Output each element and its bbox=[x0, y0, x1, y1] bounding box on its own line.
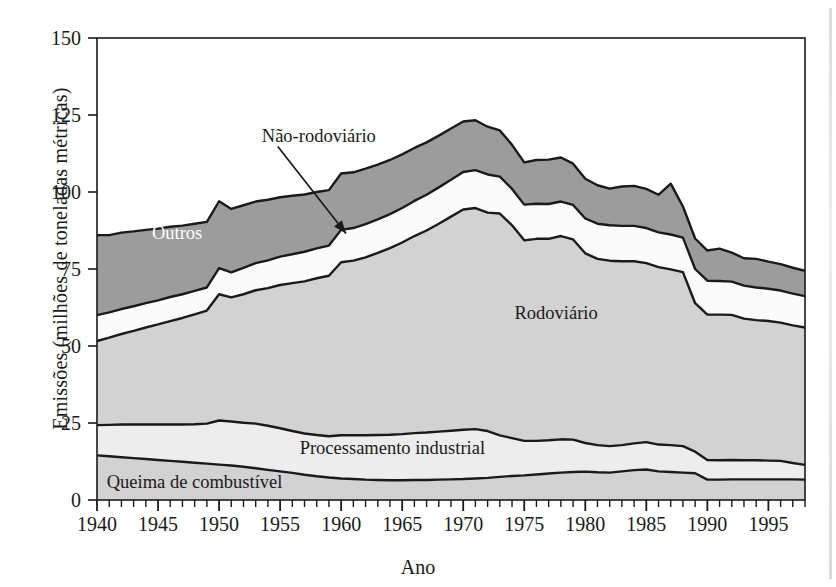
x-tick-label: 1990 bbox=[672, 514, 742, 534]
page-edge-artifact bbox=[829, 8, 832, 579]
x-tick-label: 1965 bbox=[367, 514, 437, 534]
x-tick-label: 1955 bbox=[245, 514, 315, 534]
x-tick-label: 1970 bbox=[428, 514, 498, 534]
x-tick-label: 1995 bbox=[733, 514, 803, 534]
series-label-processamento-industrial: Processamento industrial bbox=[300, 439, 485, 458]
y-axis-ticks bbox=[88, 38, 97, 500]
x-axis-minor-ticks bbox=[109, 500, 805, 507]
y-tick-label: 0 bbox=[29, 490, 81, 510]
y-tick-label: 75 bbox=[29, 259, 81, 279]
x-tick-label: 1940 bbox=[62, 514, 132, 534]
x-tick-label: 1975 bbox=[489, 514, 559, 534]
x-axis-ticks bbox=[97, 500, 768, 511]
series-label-rodoviario: Rodoviário bbox=[514, 304, 597, 323]
x-axis-title: Ano bbox=[0, 556, 836, 579]
stacked-area-chart bbox=[0, 0, 836, 587]
x-tick-label: 1945 bbox=[123, 514, 193, 534]
y-tick-label: 150 bbox=[29, 28, 81, 48]
x-tick-label: 1985 bbox=[611, 514, 681, 534]
y-tick-label: 25 bbox=[29, 413, 81, 433]
y-tick-label: 50 bbox=[29, 336, 81, 356]
x-tick-label: 1980 bbox=[550, 514, 620, 534]
series-label-queima-de-combustivel: Queima de combustível bbox=[107, 473, 283, 492]
chart-figure: Emissões (milhões de toneladas métricas)… bbox=[0, 0, 836, 587]
series-label-nao-rodoviario: Não-rodoviário bbox=[262, 127, 376, 146]
x-tick-label: 1960 bbox=[306, 514, 376, 534]
x-tick-label: 1950 bbox=[184, 514, 254, 534]
y-tick-label: 100 bbox=[29, 182, 81, 202]
y-tick-label: 125 bbox=[29, 105, 81, 125]
series-label-outros: Outros bbox=[152, 224, 202, 243]
